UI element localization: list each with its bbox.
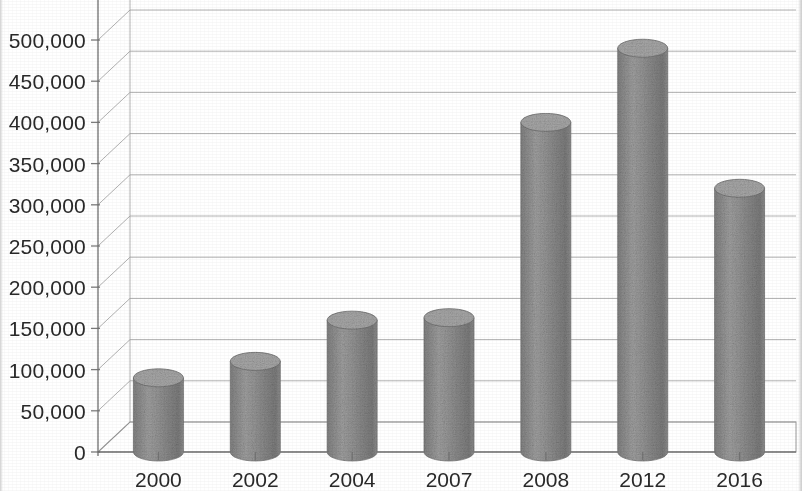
x-axis-tick-label: 2004 — [302, 469, 402, 490]
x-axis-tick-labels: 2000200220042007200820122016 — [0, 0, 802, 491]
x-axis-tick-label: 2007 — [399, 469, 499, 490]
bar-chart-figure: 500,000450,000400,000350,000300,000250,0… — [0, 0, 802, 491]
x-axis-tick-label: 2002 — [205, 469, 305, 490]
x-axis-tick-label: 2000 — [108, 469, 208, 490]
page-edge-left — [0, 0, 3, 491]
page-edge-right — [798, 0, 802, 491]
x-axis-tick-label: 2008 — [496, 469, 596, 490]
x-axis-tick-label: 2012 — [593, 469, 693, 490]
x-axis-tick-label: 2016 — [690, 469, 790, 490]
